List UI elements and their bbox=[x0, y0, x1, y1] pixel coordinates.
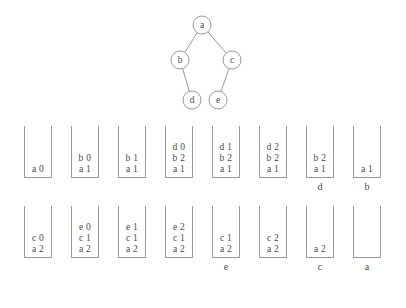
stack-box: e 1c 1a 2 bbox=[118, 206, 146, 258]
stack-frame: e 0 bbox=[79, 222, 91, 233]
stack-frame: b 2 bbox=[220, 153, 233, 164]
stack-cell: e 0c 1a 2 bbox=[71, 206, 99, 273]
stack-box: d 2b 2a 1 bbox=[259, 126, 287, 178]
stack-cell: e 2c 1a 2 bbox=[165, 206, 193, 273]
stack-frame: a 2 bbox=[220, 244, 232, 255]
stack-frame: b 0 bbox=[79, 153, 92, 164]
stack-frame: c 0 bbox=[32, 233, 44, 244]
stack-cell: b 0a 1 bbox=[71, 126, 99, 193]
stack-frame: c 1 bbox=[79, 233, 91, 244]
tree-node-b: b bbox=[171, 51, 189, 69]
stack-cell: a 0 bbox=[24, 126, 52, 193]
tree-node-label-d: d bbox=[190, 95, 195, 105]
stack-box: d 1b 2a 1 bbox=[212, 126, 240, 178]
stack-frame: d 2 bbox=[267, 142, 280, 153]
stack-cell: a 2c bbox=[306, 206, 334, 273]
stack-frame: a 1 bbox=[173, 164, 185, 175]
stack-sequence-row-2: c 0a 2e 0c 1a 2e 1c 1a 2e 2c 1a 2c 1a 2e… bbox=[24, 206, 381, 273]
tree-node-e: e bbox=[209, 91, 227, 109]
stack-frame: e 1 bbox=[126, 222, 138, 233]
stack-frame: a 2 bbox=[314, 244, 326, 255]
tree-node-label-b: b bbox=[178, 55, 183, 65]
stack-cell: b 1a 1 bbox=[118, 126, 146, 193]
stack-box: c 0a 2 bbox=[24, 206, 52, 258]
stack-frame: a 1 bbox=[220, 164, 232, 175]
stack-cell: c 0a 2 bbox=[24, 206, 52, 273]
stack-cell: a 1b bbox=[353, 126, 381, 193]
tree-edge-b-d bbox=[183, 69, 190, 92]
stack-cell: d 2b 2a 1 bbox=[259, 126, 287, 193]
stack-trace-figure: abcde a 0b 0a 1b 1a 1d 0b 2a 1d 1b 2a 1d… bbox=[0, 0, 406, 308]
stack-caption: b bbox=[365, 181, 370, 193]
stack-frame: d 1 bbox=[220, 142, 233, 153]
stack-box: b 0a 1 bbox=[71, 126, 99, 178]
stack-box bbox=[353, 206, 381, 258]
stack-frame: c 1 bbox=[173, 233, 185, 244]
stack-box: a 1 bbox=[353, 126, 381, 178]
stack-cell: c 1a 2e bbox=[212, 206, 240, 273]
stack-cell: b 2a 1d bbox=[306, 126, 334, 193]
tree-node-c: c bbox=[223, 51, 241, 69]
tree-node-label-e: e bbox=[216, 95, 220, 105]
stack-box: a 2 bbox=[306, 206, 334, 258]
stack-box: c 1a 2 bbox=[212, 206, 240, 258]
stack-frame: a 1 bbox=[126, 164, 138, 175]
stack-caption: d bbox=[318, 181, 323, 193]
tree-node-a: a bbox=[193, 16, 211, 34]
tree-edge-c-e bbox=[221, 68, 229, 91]
stack-box: b 2a 1 bbox=[306, 126, 334, 178]
stack-cell: a bbox=[353, 206, 381, 273]
tree-svg: abcde bbox=[150, 8, 270, 120]
binary-tree-diagram: abcde bbox=[150, 8, 270, 120]
stack-box: b 1a 1 bbox=[118, 126, 146, 178]
stack-frame: a 2 bbox=[32, 244, 44, 255]
tree-node-label-c: c bbox=[230, 55, 234, 65]
tree-edge-group bbox=[183, 32, 229, 92]
tree-edge-a-b bbox=[185, 33, 197, 53]
stack-cell: d 0b 2a 1 bbox=[165, 126, 193, 193]
stack-frame: c 2 bbox=[267, 233, 279, 244]
stack-frame: a 2 bbox=[126, 244, 138, 255]
stack-sequence-row-1: a 0b 0a 1b 1a 1d 0b 2a 1d 1b 2a 1d 2b 2a… bbox=[24, 126, 381, 193]
stack-box: c 2a 2 bbox=[259, 206, 287, 258]
stack-box: e 2c 1a 2 bbox=[165, 206, 193, 258]
stack-frame: c 1 bbox=[126, 233, 138, 244]
stack-box: e 0c 1a 2 bbox=[71, 206, 99, 258]
stack-caption: e bbox=[224, 261, 228, 273]
stack-frame: b 2 bbox=[267, 153, 280, 164]
stack-cell: d 1b 2a 1 bbox=[212, 126, 240, 193]
stack-frame: a 0 bbox=[32, 164, 44, 175]
stack-caption: c bbox=[318, 261, 322, 273]
stack-frame: a 2 bbox=[173, 244, 185, 255]
stack-cell: e 1c 1a 2 bbox=[118, 206, 146, 273]
tree-node-group: abcde bbox=[171, 16, 241, 109]
stack-frame: a 2 bbox=[267, 244, 279, 255]
stack-frame: b 1 bbox=[126, 153, 139, 164]
stack-frame: a 1 bbox=[361, 164, 373, 175]
tree-edge-a-c bbox=[208, 32, 226, 53]
stack-frame: a 2 bbox=[79, 244, 91, 255]
stack-frame: a 1 bbox=[79, 164, 91, 175]
tree-node-d: d bbox=[183, 91, 201, 109]
stack-frame: b 2 bbox=[173, 153, 186, 164]
stack-frame: e 2 bbox=[173, 222, 185, 233]
stack-frame: a 1 bbox=[314, 164, 326, 175]
stack-frame: a 1 bbox=[267, 164, 279, 175]
stack-frame: b 2 bbox=[314, 153, 327, 164]
stack-box: d 0b 2a 1 bbox=[165, 126, 193, 178]
stack-caption: a bbox=[365, 261, 369, 273]
stack-frame: c 1 bbox=[220, 233, 232, 244]
stack-cell: c 2a 2 bbox=[259, 206, 287, 273]
stack-frame: d 0 bbox=[173, 142, 186, 153]
stack-box: a 0 bbox=[24, 126, 52, 178]
